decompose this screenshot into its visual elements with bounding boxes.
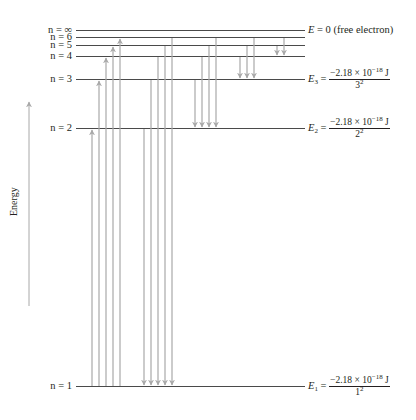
equals-sign: = bbox=[318, 122, 329, 133]
energy-fraction: −2.18 × 10−18 J32 bbox=[329, 68, 390, 91]
denominator-exponent: 2 bbox=[360, 127, 364, 135]
numerator-value: −2.18 × 10 bbox=[330, 68, 372, 78]
fraction-denominator: 12 bbox=[329, 387, 390, 398]
level-label: n = 1 bbox=[4, 381, 72, 391]
numerator-exponent: −18 bbox=[372, 66, 383, 74]
energy-label-free: E = 0 (free electron) bbox=[308, 24, 393, 35]
numerator-value: −2.18 × 10 bbox=[330, 117, 372, 127]
energy-level-lines bbox=[76, 31, 305, 387]
numerator-exponent: −18 bbox=[372, 373, 383, 381]
energy-fraction: −2.18 × 10−18 J12 bbox=[329, 375, 390, 398]
level-label: n = 3 bbox=[4, 74, 72, 84]
level-label: n = 4 bbox=[4, 51, 72, 61]
energy-label-e3: E3 = −2.18 × 10−18 J32 bbox=[308, 68, 390, 91]
fraction-denominator: 22 bbox=[329, 129, 390, 140]
denominator-exponent: 2 bbox=[360, 385, 364, 393]
equals-sign: = bbox=[318, 380, 329, 391]
numerator-exponent: −18 bbox=[372, 115, 383, 123]
energy-axis-label: Energy bbox=[8, 185, 19, 218]
equals-sign: = bbox=[318, 73, 329, 84]
energy-free-text: = 0 (free electron) bbox=[314, 24, 393, 35]
fraction-denominator: 32 bbox=[329, 80, 390, 91]
energy-label-e2: E2 = −2.18 × 10−18 J22 bbox=[308, 117, 390, 140]
numerator-unit: J bbox=[383, 68, 389, 78]
energy-level-diagram bbox=[0, 0, 416, 420]
numerator-value: −2.18 × 10 bbox=[330, 375, 372, 385]
energy-label-e1: E1 = −2.18 × 10−18 J12 bbox=[308, 375, 390, 398]
level-label: n = 5 bbox=[4, 40, 72, 50]
energy-fraction: −2.18 × 10−18 J22 bbox=[329, 117, 390, 140]
level-label: n = 2 bbox=[4, 123, 72, 133]
denominator-exponent: 2 bbox=[360, 78, 364, 86]
numerator-unit: J bbox=[383, 117, 389, 127]
transition-arrows bbox=[92, 38, 284, 386]
numerator-unit: J bbox=[383, 375, 389, 385]
